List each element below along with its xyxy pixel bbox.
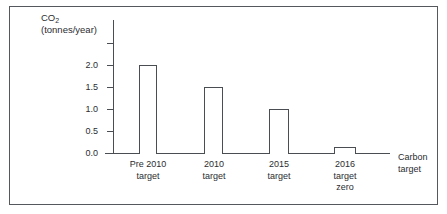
- y-tick-label: 1.0: [58, 105, 98, 114]
- y-tick-mark: [107, 109, 114, 110]
- y-tick-mark: [107, 131, 114, 132]
- bar-2016-target-zero: [334, 147, 356, 154]
- y-tick-mark: [107, 153, 114, 154]
- y-axis-title-line-2: (tonnes/year): [41, 24, 97, 35]
- x-axis-title-line-1: Carbon: [398, 152, 428, 164]
- bar-pre-2010-target: [139, 65, 157, 154]
- category-label-line: target: [305, 171, 385, 183]
- y-tick-label: 0.5: [58, 127, 98, 136]
- chart-figure: 0.0 0.5 1.0 1.5 2.0 CO2 (tonnes/year) Pr…: [0, 0, 447, 214]
- x-axis-title: Carbon target: [398, 152, 428, 175]
- x-axis-title-line-2: target: [398, 164, 428, 176]
- y-axis-title-line-1: CO2: [41, 12, 97, 24]
- y-tick-label: 0.0: [58, 149, 98, 158]
- plot-area: 0.0 0.5 1.0 1.5 2.0 CO2 (tonnes/year) Pr…: [0, 0, 447, 214]
- bar-2015-target: [269, 109, 289, 154]
- y-tick-label: 2.0: [58, 61, 98, 70]
- category-label-2016-target-zero: 2016 target zero: [305, 159, 385, 194]
- y-axis-title: CO2 (tonnes/year): [41, 12, 97, 35]
- bar-2010-target: [204, 87, 223, 154]
- y-tick-mark: [107, 65, 114, 66]
- y-tick-label: 1.5: [58, 83, 98, 92]
- y-tick-mark: [107, 43, 114, 44]
- y-tick-mark: [107, 87, 114, 88]
- category-label-line: 2016: [305, 159, 385, 171]
- category-label-line: zero: [305, 182, 385, 194]
